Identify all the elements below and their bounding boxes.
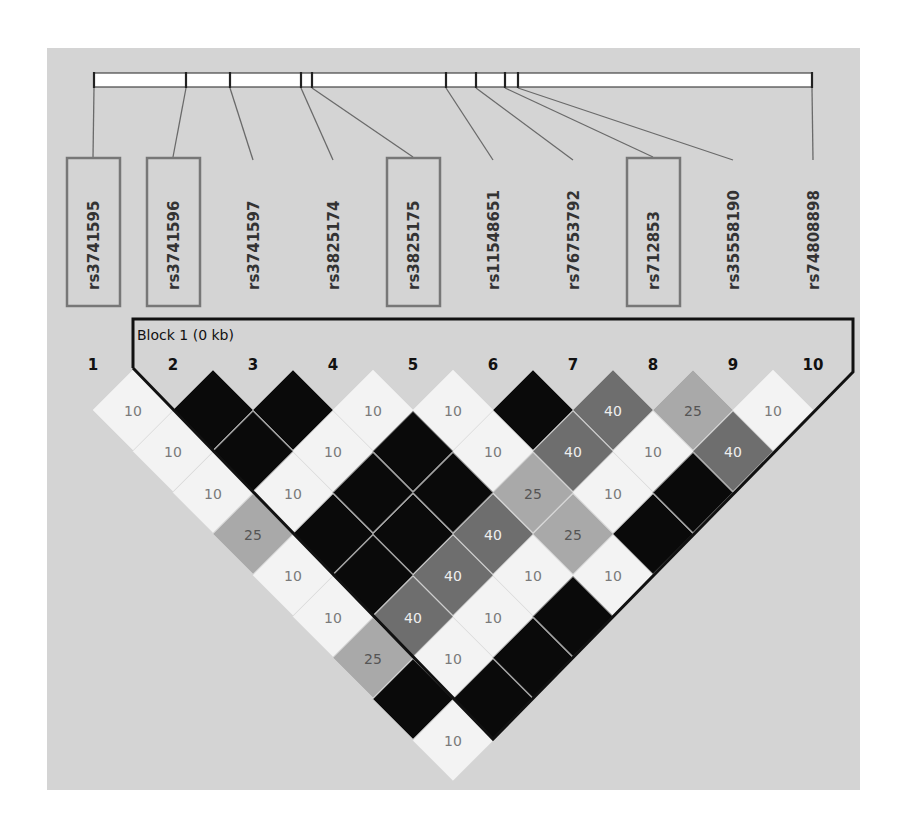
chromosome-position-bar <box>94 72 812 88</box>
ld-value: 25 <box>564 527 582 543</box>
ld-value: 10 <box>604 568 622 584</box>
snp-labels: rs3741595rs3741596rs3741597rs3825174rs38… <box>67 158 823 306</box>
ld-value: 40 <box>564 444 582 460</box>
ld-value: 10 <box>364 403 382 419</box>
ld-plot: rs3741595rs3741596rs3741597rs3825174rs38… <box>0 0 902 823</box>
marker-number-8: 8 <box>648 356 658 374</box>
ld-value: 10 <box>324 610 342 626</box>
ld-value: 10 <box>524 568 542 584</box>
ld-value: 10 <box>284 568 302 584</box>
ld-value: 10 <box>644 444 662 460</box>
snp-label-rs712853: rs712853 <box>645 211 663 290</box>
block-title: Block 1 (0 kb) <box>137 327 234 343</box>
ld-cells: 1010104025101010104010401010251025402510… <box>93 370 813 780</box>
ld-value: 10 <box>164 444 182 460</box>
connector-line <box>93 88 94 157</box>
ld-value: 10 <box>444 733 462 749</box>
connector-line <box>173 88 186 157</box>
marker-number-5: 5 <box>408 356 418 374</box>
snp-label-rs76753792: rs76753792 <box>565 190 583 290</box>
ld-value: 25 <box>524 486 542 502</box>
chromosome-bar <box>94 73 812 87</box>
ld-value: 10 <box>124 403 142 419</box>
ld-value: 25 <box>684 403 702 419</box>
ld-value: 10 <box>444 403 462 419</box>
connector-line <box>476 88 573 160</box>
ld-value: 40 <box>604 403 622 419</box>
ld-value: 10 <box>764 403 782 419</box>
marker-number-7: 7 <box>568 356 578 374</box>
ld-value: 40 <box>484 527 502 543</box>
snp-label-rs3825174: rs3825174 <box>325 201 343 290</box>
marker-number-9: 9 <box>728 356 738 374</box>
marker-numbers: 12345678910 <box>88 356 824 374</box>
connector-line <box>812 88 813 160</box>
marker-connector-lines <box>93 88 813 160</box>
ld-value: 10 <box>604 486 622 502</box>
ld-value: 10 <box>324 444 342 460</box>
snp-label-rs3825175: rs3825175 <box>405 201 423 290</box>
snp-label-rs35558190: rs35558190 <box>725 190 743 290</box>
marker-number-4: 4 <box>328 356 338 374</box>
connector-line <box>446 88 493 160</box>
marker-number-2: 2 <box>168 356 178 374</box>
ld-value: 10 <box>484 610 502 626</box>
connector-line <box>230 88 253 160</box>
marker-number-10: 10 <box>803 356 824 374</box>
ld-value: 10 <box>284 486 302 502</box>
ld-value: 40 <box>404 610 422 626</box>
connector-line <box>505 88 653 157</box>
ld-value: 40 <box>724 444 742 460</box>
ld-value: 10 <box>484 444 502 460</box>
marker-number-3: 3 <box>248 356 258 374</box>
ld-value: 40 <box>444 568 462 584</box>
snp-label-rs3741595: rs3741595 <box>85 201 103 290</box>
snp-label-rs11548651: rs11548651 <box>485 190 503 290</box>
snp-label-rs74808898: rs74808898 <box>805 190 823 290</box>
ld-value: 25 <box>244 527 262 543</box>
ld-value: 25 <box>364 651 382 667</box>
snp-label-rs3741597: rs3741597 <box>245 201 263 290</box>
connector-line <box>518 88 733 160</box>
marker-number-6: 6 <box>488 356 498 374</box>
ld-value: 10 <box>204 486 222 502</box>
snp-label-rs3741596: rs3741596 <box>165 201 183 290</box>
ld-value: 10 <box>444 651 462 667</box>
marker-number-1: 1 <box>88 356 98 374</box>
